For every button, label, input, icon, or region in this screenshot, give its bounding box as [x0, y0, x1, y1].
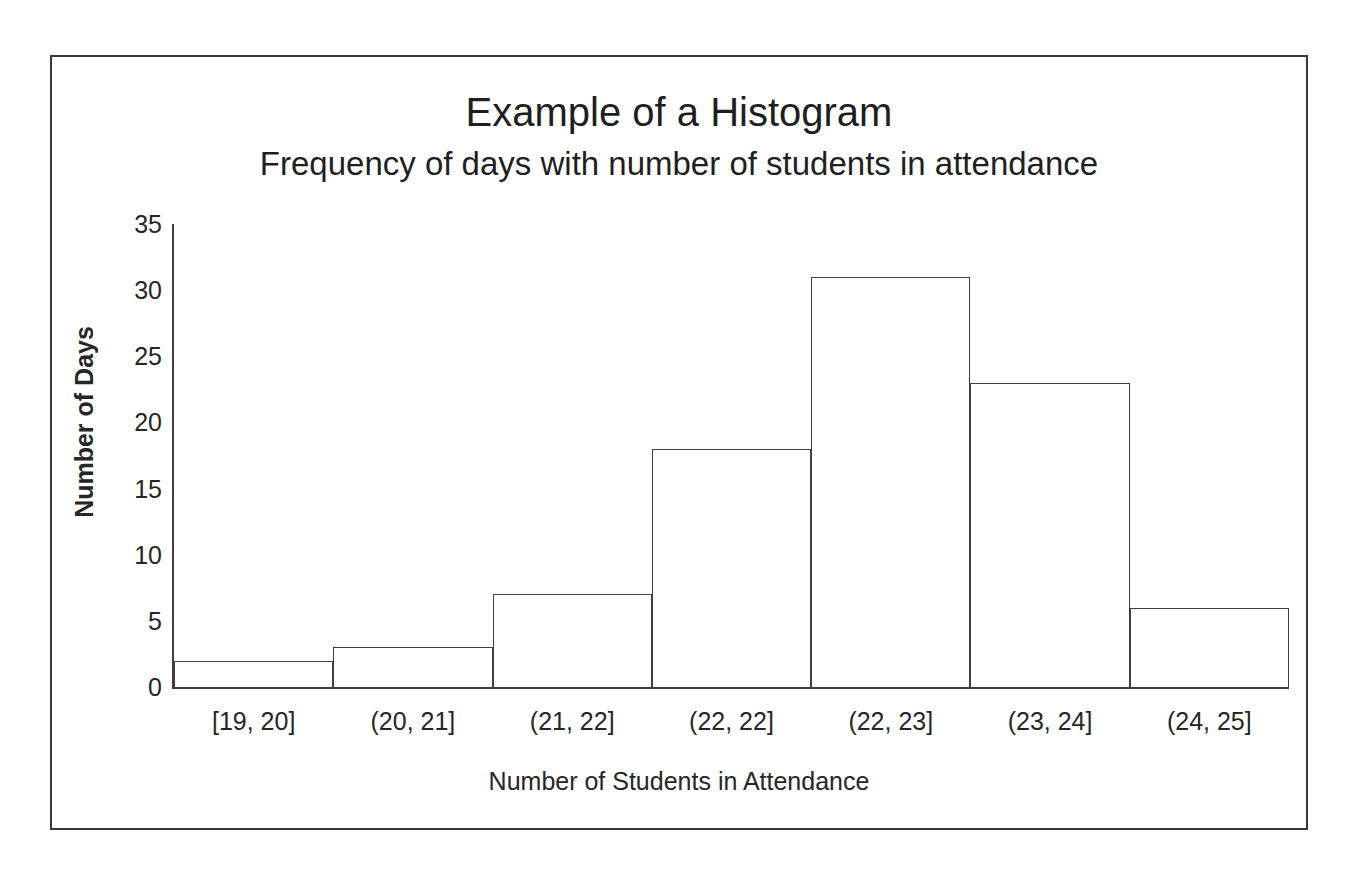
bar-cell [652, 224, 811, 687]
histogram-bar[interactable] [174, 661, 333, 687]
bar-cell [333, 224, 492, 687]
y-tick-label: 25 [134, 342, 162, 371]
histogram-bar[interactable] [333, 647, 492, 687]
x-tick-label: (22, 22] [652, 707, 811, 736]
y-tick-label: 30 [134, 276, 162, 305]
x-tick-label: (23, 24] [970, 707, 1129, 736]
bar-cell [493, 224, 652, 687]
bar-cell [174, 224, 333, 687]
x-tick-label: [19, 20] [174, 707, 333, 736]
x-tick-label: (22, 23] [811, 707, 970, 736]
histogram-bars [174, 224, 1289, 687]
y-tick-label: 35 [134, 210, 162, 239]
chart-title: Example of a Histogram [52, 90, 1306, 135]
y-tick-label: 5 [148, 606, 162, 635]
x-tick-label: (24, 25] [1130, 707, 1289, 736]
chart-frame: Example of a Histogram Frequency of days… [50, 55, 1308, 830]
histogram-bar[interactable] [811, 277, 970, 687]
y-tick-label: 15 [134, 474, 162, 503]
x-axis-line [172, 687, 1289, 689]
x-tick-label: (21, 22] [493, 707, 652, 736]
y-tick-label: 0 [148, 673, 162, 702]
x-axis-title: Number of Students in Attendance [52, 767, 1306, 796]
y-tick-label: 20 [134, 408, 162, 437]
plot-area: 0 5 10 15 20 25 30 35 [174, 224, 1289, 687]
x-axis-tick-labels: [19, 20] (20, 21] (21, 22] (22, 22] (22,… [174, 707, 1289, 736]
histogram-bar[interactable] [493, 594, 652, 687]
chart-subtitle: Frequency of days with number of student… [52, 145, 1306, 183]
y-tick-label: 10 [134, 540, 162, 569]
bar-cell [811, 224, 970, 687]
bar-cell [1130, 224, 1289, 687]
x-tick-label: (20, 21] [333, 707, 492, 736]
y-axis-title: Number of Days [70, 257, 99, 587]
bar-cell [970, 224, 1129, 687]
histogram-bar[interactable] [1130, 608, 1289, 687]
histogram-bar[interactable] [652, 449, 811, 687]
histogram-bar[interactable] [970, 383, 1129, 687]
